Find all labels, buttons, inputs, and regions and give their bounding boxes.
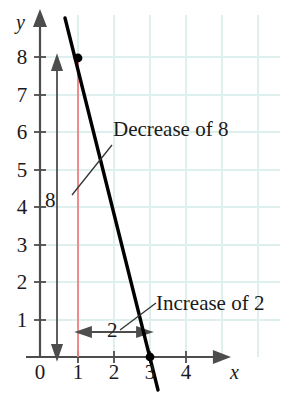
x-tick-label-2: 2 — [103, 362, 125, 383]
y-axis-label: y — [16, 12, 25, 32]
run-value-label: 2 — [107, 320, 118, 341]
y-tick-label-5: 5 — [11, 160, 33, 181]
increase-annotation: Increase of 2 — [156, 293, 264, 314]
line-graph-figure: y x 0 8 7 6 5 4 3 2 1 1 2 3 4 8 2 Decrea… — [0, 0, 292, 407]
coordinate-plane-svg — [0, 0, 292, 407]
y-tick-label-1: 1 — [11, 310, 33, 331]
y-tick-label-4: 4 — [11, 197, 33, 218]
y-tick-label-7: 7 — [11, 85, 33, 106]
origin-tick-label: 0 — [29, 362, 51, 383]
x-tick-label-1: 1 — [67, 362, 89, 383]
x-tick-label-4: 4 — [175, 362, 197, 383]
x-axis-label: x — [230, 362, 239, 382]
y-tick-label-3: 3 — [11, 235, 33, 256]
data-point-1-8 — [74, 54, 83, 63]
y-tick-label-6: 6 — [11, 122, 33, 143]
x-tick-label-3: 3 — [139, 362, 161, 383]
rise-value-label: 8 — [45, 190, 56, 211]
decrease-annotation: Decrease of 8 — [113, 119, 228, 140]
y-tick-label-8: 8 — [11, 47, 33, 68]
y-tick-label-2: 2 — [11, 272, 33, 293]
y-axis — [35, 12, 46, 357]
